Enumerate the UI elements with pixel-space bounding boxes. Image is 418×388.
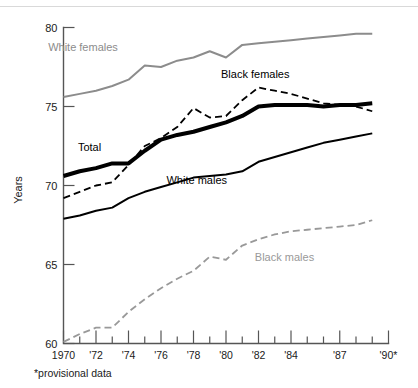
y-axis-ticks: [64, 28, 75, 344]
x-tick-label: '76: [154, 349, 168, 361]
figure-root: 6065707580 1970'72'74'76'78'80'82'84'87'…: [0, 0, 418, 388]
x-tick-label: '82: [252, 349, 266, 361]
x-tick-label: '80: [219, 349, 233, 361]
x-tick-label: 1970: [52, 349, 76, 361]
annotation-black-females: Black females: [221, 68, 290, 80]
y-tick-label: 65: [45, 259, 57, 271]
footnote: *provisional data: [34, 367, 112, 379]
y-tick-label: 80: [45, 22, 57, 34]
x-tick-label: '84: [284, 349, 298, 361]
y-axis-title: Years: [12, 176, 24, 204]
series-line-total: [64, 103, 373, 176]
series-line-black-males: [64, 220, 373, 342]
x-tick-label: '78: [187, 349, 201, 361]
x-axis-ticks: [64, 331, 389, 344]
y-tick-label: 75: [45, 101, 57, 113]
x-axis-tick-labels: 1970'72'74'76'78'80'82'84'87'90*: [52, 349, 398, 361]
life-expectancy-line-chart: 6065707580 1970'72'74'76'78'80'82'84'87'…: [0, 0, 418, 388]
x-tick-label: '87: [333, 349, 347, 361]
annotation-black-males: Black males: [255, 251, 315, 263]
y-tick-label: 70: [45, 180, 57, 192]
x-tick-label: '74: [122, 349, 136, 361]
series-lines: [64, 34, 373, 342]
x-tick-label: '90*: [380, 349, 398, 361]
series-annotations: White femalesBlack femalesTotalWhite mal…: [48, 41, 315, 263]
y-axis-tick-labels: 6065707580: [45, 22, 57, 350]
annotation-white-males: White males: [166, 174, 227, 186]
x-tick-label: '72: [89, 349, 103, 361]
annotation-total: Total: [78, 141, 101, 153]
annotation-white-females: White females: [48, 41, 118, 53]
